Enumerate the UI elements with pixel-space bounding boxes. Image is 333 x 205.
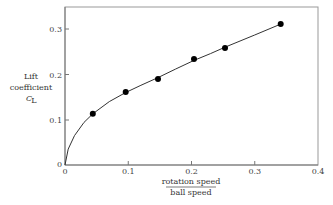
y-axis-label: Lift coefficient C L	[10, 72, 53, 105]
y-ticks: 0 0.1 0.2 0.3	[49, 25, 69, 169]
x-tick-label: 0	[62, 167, 67, 176]
svg-text:ball speed: ball speed	[170, 188, 211, 197]
x-axis-label: rotation speed ball speed	[162, 177, 221, 197]
lift-coefficient-chart: 0 0.1 0.2 0.3 0 0.1 0.2 0.3 0.4 Lift coe…	[0, 0, 333, 205]
x-tick-label: 0.3	[248, 167, 261, 176]
data-point	[90, 111, 96, 117]
data-point	[191, 56, 197, 62]
y-tick-label: 0.3	[49, 25, 62, 34]
svg-text:coefficient: coefficient	[10, 83, 53, 92]
x-tick-label: 0.4	[312, 167, 325, 176]
x-ticks: 0 0.1 0.2 0.3 0.4	[62, 161, 324, 176]
x-tick-label: 0.2	[185, 167, 198, 176]
data-point	[222, 45, 228, 51]
svg-text:rotation speed: rotation speed	[162, 177, 221, 186]
x-tick-label: 0.1	[122, 167, 135, 176]
y-tick-label: 0.2	[49, 71, 62, 80]
plot-frame	[65, 7, 318, 165]
data-point	[278, 21, 284, 27]
svg-text:Lift: Lift	[24, 72, 39, 81]
y-tick-label: 0	[57, 160, 62, 169]
data-point	[155, 76, 161, 82]
y-tick-label: 0.1	[49, 116, 62, 125]
data-point	[123, 89, 129, 95]
fit-curve-line	[65, 24, 281, 165]
svg-text:L: L	[31, 96, 37, 105]
fit-curve	[65, 24, 281, 165]
